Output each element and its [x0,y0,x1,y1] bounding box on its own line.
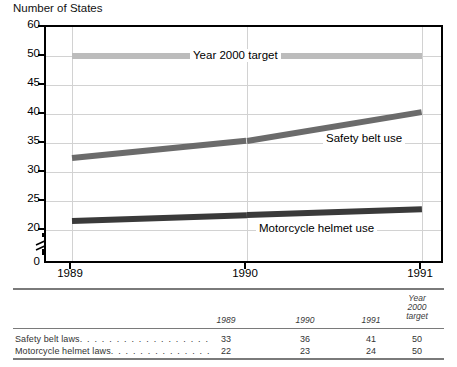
y-axis-label-20: 20 [6,222,40,234]
y-axis-label-25: 25 [6,193,40,205]
table-row-label-motorcycle-helmet-laws: Motorcycle helmet laws [15,346,111,356]
table-cell-safety-belt-1989: 33 [199,334,253,345]
x-axis-label-1989: 1989 [40,267,100,280]
table-rule-top [13,288,444,290]
table-rule-middle [13,328,444,329]
table-header-target-line-3: target [390,312,444,321]
table-row-leader-motorcycle-helmet-laws: . . . . . . . . . . . . . . [111,346,211,356]
y-axis-label-40: 40 [6,106,40,118]
y-axis-label-35: 35 [6,135,40,147]
table-cell-motorcycle-target: 50 [390,346,444,357]
table-row: Motorcycle helmet laws. . . . . . . . . … [15,346,211,357]
chart-figure: 60 50 45 40 35 30 25 20 0 Ye [0,0,457,285]
series-label-motorcycle: Motorcycle helmet use [256,222,377,235]
table-cell-motorcycle-1990: 23 [278,346,332,357]
y-axis-label-30: 30 [6,164,40,176]
table-cell-safety-belt-target: 50 [390,334,444,345]
y-axis-label-45: 45 [6,77,40,89]
table-header-year-2000-target: Year 2000 target [390,294,444,321]
table-header-1990: 1990 [278,316,332,325]
table-row-label-safety-belt-laws: Safety belt laws [15,334,80,344]
gridline-y-45 [46,85,441,86]
y-axis-label-60: 60 [6,19,40,31]
plot-area: Year 2000 target Safety belt use Motorcy… [44,25,443,263]
table-header-1989: 1989 [199,316,253,325]
series-label-safety-belt: Safety belt use [323,132,405,145]
series-label-year-2000-target: Year 2000 target [190,49,281,62]
table-rule-bottom [13,358,444,360]
gridline-y-20 [46,230,441,231]
series-line-motorcycle-1990-1991 [247,206,422,218]
x-axis-label-1990: 1990 [215,267,275,280]
table-row: Safety belt laws. . . . . . . . . . . . … [15,334,209,345]
table-cell-motorcycle-1989: 22 [199,346,253,357]
data-table: 1989 1990 1991 Year 2000 target Safety b… [13,288,444,364]
x-axis-label-1991: 1991 [390,267,450,280]
series-line-safety-belt-1989-1990 [72,138,247,161]
table-row-leader-safety-belt-laws: . . . . . . . . . . . . . . . . . . [80,334,210,344]
gridline-x-1991 [422,27,423,261]
y-axis-label-50: 50 [6,48,40,60]
gridline-y-25 [46,201,441,202]
gridline-x-1989 [72,27,73,261]
series-line-motorcycle-1989-1990 [72,212,247,224]
table-cell-safety-belt-1990: 36 [278,334,332,345]
y-axis-label-0: 0 [6,256,40,268]
gridline-y-30 [46,172,441,173]
